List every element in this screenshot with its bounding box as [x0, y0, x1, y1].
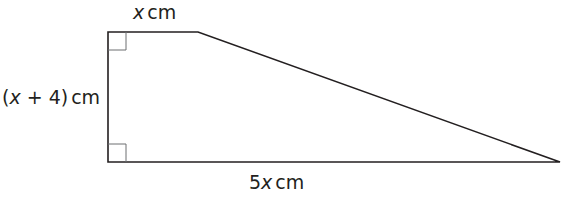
bottom-side-label: 5xcm: [249, 171, 304, 193]
right-angle-marker-bottom: [108, 144, 126, 162]
top-side-label: xcm: [132, 1, 176, 23]
trapezium-shape: [108, 32, 560, 162]
trapezium-diagram: xcm (x + 4)cm 5xcm: [0, 0, 584, 203]
right-angle-marker-top: [108, 32, 126, 50]
left-side-label: (x + 4)cm: [2, 86, 100, 108]
